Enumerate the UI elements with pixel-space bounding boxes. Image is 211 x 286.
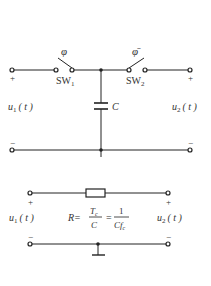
input-terminal-top	[28, 191, 32, 195]
switch1-contact	[54, 68, 58, 72]
junction-dot	[99, 148, 103, 152]
input-plus: +	[28, 197, 33, 207]
input-plus: +	[10, 73, 15, 83]
fraction1-numerator: Tc	[90, 206, 98, 217]
switch2-contact	[127, 68, 131, 72]
bottom-circuit: + + − − u1( t ) u2( t ) R= Tc C = 1 Cfc	[9, 189, 183, 255]
switched-capacitor-diagram: φ SW1 φ̄ SW2 C + + − − u1( t ) u2( t ) +…	[0, 0, 211, 286]
input-minus: −	[10, 138, 15, 148]
output-voltage-label: u2( t )	[157, 212, 183, 225]
output-voltage-label: u2( t )	[172, 101, 198, 114]
resistor	[86, 189, 105, 197]
switch1-contact	[70, 68, 74, 72]
switch1-label: SW1	[56, 75, 75, 88]
input-terminal-top	[10, 68, 14, 72]
input-voltage-label: u1( t )	[9, 212, 35, 225]
output-terminal-bottom	[188, 148, 192, 152]
switch2-blade	[129, 58, 144, 68]
fraction1-denominator: C	[91, 220, 98, 230]
capacitor-label: C	[112, 101, 119, 112]
switch2-control-label: φ̄	[132, 45, 141, 57]
input-terminal-bottom	[10, 148, 14, 152]
switch2-label: SW2	[126, 75, 145, 88]
switch1-blade	[58, 58, 72, 68]
switch2-contact	[143, 68, 147, 72]
output-minus: −	[188, 138, 193, 148]
top-circuit: φ SW1 φ̄ SW2 C + + − − u1( t ) u2( t )	[8, 45, 198, 157]
equation-lhs: R=	[67, 212, 81, 223]
output-terminal-top	[188, 68, 192, 72]
fraction2-numerator: 1	[119, 206, 124, 216]
input-voltage-label: u1( t )	[8, 101, 34, 114]
output-minus: −	[166, 232, 171, 242]
output-plus: +	[188, 73, 193, 83]
output-terminal-top	[166, 191, 170, 195]
output-plus: +	[166, 197, 171, 207]
switch1-control-label: φ	[61, 45, 67, 57]
fraction2-denominator: Cfc	[114, 220, 126, 231]
resistor-equation: R= Tc C = 1 Cfc	[67, 206, 129, 231]
output-terminal-bottom	[166, 242, 170, 246]
equation-equals: =	[106, 212, 112, 223]
input-minus: −	[28, 232, 33, 242]
input-terminal-bottom	[28, 242, 32, 246]
